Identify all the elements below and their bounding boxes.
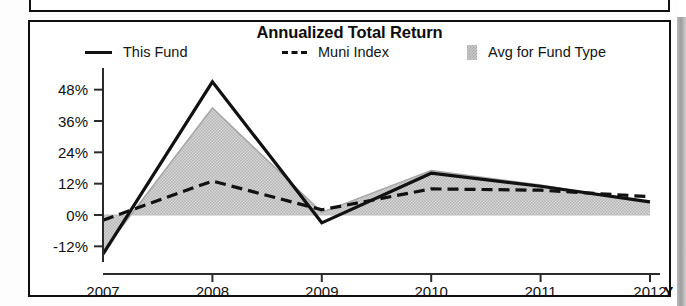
x-axis-tick-label: 2011 — [524, 283, 556, 299]
y-axis-tick-label: -12% — [53, 238, 88, 255]
plot-area: -12%0%12%24%36%48%2007200820092010201120… — [30, 22, 673, 299]
partial-panel-above — [29, 0, 670, 12]
series-area-avg-for-fund-type — [103, 108, 650, 252]
chart-panel: Annualized Total Return This Fund Muni I… — [28, 20, 671, 297]
x-axis-tick-label: 2008 — [196, 283, 229, 299]
y-axis-tick-label: 36% — [58, 113, 88, 130]
x-axis-tick-label: 2007 — [86, 283, 119, 299]
y-axis-tick-label: 0% — [66, 207, 88, 224]
y-axis-tick-label: 24% — [58, 144, 88, 161]
scrollbar-gap — [677, 0, 686, 17]
vertical-scrollbar[interactable] — [677, 0, 686, 306]
x-axis-tick-label: 2009 — [305, 283, 338, 299]
annualized-total-return-chart: -12%0%12%24%36%48%2007200820092010201120… — [30, 22, 673, 299]
screenshot-root: Annualized Total Return This Fund Muni I… — [0, 0, 686, 306]
y-axis-tick-label: 48% — [58, 81, 88, 98]
x-axis-ytd-label: YTD — [664, 284, 673, 299]
y-axis-tick-label: 12% — [58, 175, 88, 192]
x-axis-tick-label: 2012 — [633, 283, 666, 299]
x-axis-tick-label: 2010 — [415, 283, 448, 299]
